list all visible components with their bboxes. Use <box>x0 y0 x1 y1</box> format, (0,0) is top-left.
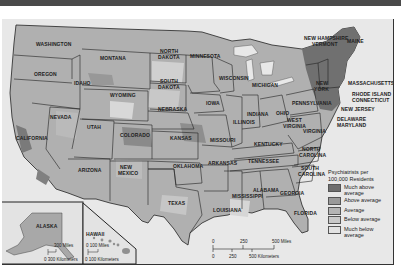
state-label: INDIANA <box>247 112 269 117</box>
state-label: FLORIDA <box>294 211 317 216</box>
alaska-label: ALASKA <box>36 224 57 229</box>
alaska-miles-scale: 300 Miles <box>54 243 73 248</box>
legend-swatch <box>328 226 341 234</box>
state-label: GEORGIA <box>280 191 304 196</box>
legend-item-above: Above average <box>328 197 394 205</box>
legend-swatch <box>328 197 341 205</box>
state-label: NEBRASKA <box>158 107 187 112</box>
legend-item-average: Average <box>328 207 394 215</box>
legend-label-cont: average <box>344 190 364 196</box>
state-label: MISSISSIPPI <box>232 194 263 199</box>
state-label: IOWA <box>206 101 220 106</box>
state-label: CAROLINA <box>299 153 326 158</box>
map-legend: Psychiatrists per 100,000 Residents Much… <box>328 169 394 238</box>
state-label: VIRGINIA <box>303 129 326 134</box>
state-label: KANSAS <box>170 136 192 141</box>
state-label: PENNSYLVANIA <box>292 101 332 106</box>
scale-miles-250: 250 <box>240 239 248 244</box>
state-label: UTAH <box>87 125 101 130</box>
state-label: DAKOTA <box>158 55 180 60</box>
legend-label-cont: average <box>344 232 364 238</box>
state-label: OREGON <box>34 72 57 77</box>
legend-item-much-below: Much belowaverage <box>328 226 394 238</box>
state-label: MONTANA <box>100 56 126 61</box>
hawaii-miles-scale: 0 100 Miles <box>86 243 109 248</box>
legend-label: Above average <box>344 197 381 203</box>
state-label: MAINE <box>347 39 364 44</box>
state-label: NEW JERSEY <box>341 107 375 112</box>
state-label: MARYLAND <box>337 123 366 128</box>
state-label: TENNESSEE <box>248 159 279 164</box>
hawaii-label: HAWAII <box>86 232 104 237</box>
state-label: DAKOTA <box>158 85 180 90</box>
scale-miles-500: 500 Miles <box>272 239 291 244</box>
state-label: CONNECTICUT <box>352 98 390 103</box>
state-label: CAROLINA <box>298 172 325 177</box>
legend-label: Average <box>344 207 364 213</box>
state-label: MINNESOTA <box>190 54 221 59</box>
state-label: TEXAS <box>168 201 185 206</box>
state-label: KENTUCKY <box>254 142 283 147</box>
alaska-km-scale: 0 300 Kilometers <box>44 257 78 262</box>
state-label: CALIFORNIA <box>16 136 48 141</box>
hawaii-km-scale: 0 100 Kilometers <box>85 257 119 262</box>
legend-swatch <box>328 184 341 192</box>
legend-swatch <box>328 207 341 215</box>
legend-label: Below average <box>344 216 380 222</box>
state-label: OHIO <box>276 111 289 116</box>
state-label: MICHIGAN <box>252 83 278 88</box>
state-label: LOUISIANA <box>213 208 241 213</box>
state-label: IDAHO <box>74 81 91 86</box>
scale-km-250: 250 <box>229 254 237 259</box>
legend-title-line2: 100,000 Residents <box>328 176 394 183</box>
legend-swatch <box>328 216 341 224</box>
state-label: YORK <box>314 87 329 92</box>
state-label: ARKANSAS <box>208 161 237 166</box>
state-label: WASHINGTON <box>36 42 71 47</box>
scale-km-0: 0 <box>212 254 215 259</box>
state-label: ARIZONA <box>78 168 101 173</box>
us-choropleth-map: WASHINGTONOREGONIDAHOMONTANAWYOMINGNEVAD… <box>2 19 394 265</box>
state-label: MASSACHUSETTS <box>348 81 394 86</box>
state-label: WISCONSIN <box>219 76 249 81</box>
state-label: NEVADA <box>50 115 71 120</box>
state-label: WYOMING <box>110 93 136 98</box>
top-banner <box>0 0 401 6</box>
legend-item-much-above: Much aboveaverage <box>328 184 394 196</box>
legend-item-below: Below average <box>328 216 394 224</box>
state-label: ILLINOIS <box>233 120 255 125</box>
scale-km-500: 500 Kilometers <box>249 254 279 259</box>
state-label: MISSOURI <box>210 138 236 143</box>
scale-miles-0: 0 <box>212 239 215 244</box>
state-label: VERMONT <box>312 42 338 47</box>
state-label: ALABAMA <box>253 188 279 193</box>
state-label: MEXICO <box>118 171 138 176</box>
state-label: OKLAHOMA <box>173 164 203 169</box>
state-label: COLORADO <box>120 133 150 138</box>
